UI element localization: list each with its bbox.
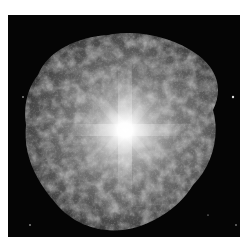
nebula-graphic: [8, 15, 240, 237]
astronomical-image: [8, 15, 240, 237]
